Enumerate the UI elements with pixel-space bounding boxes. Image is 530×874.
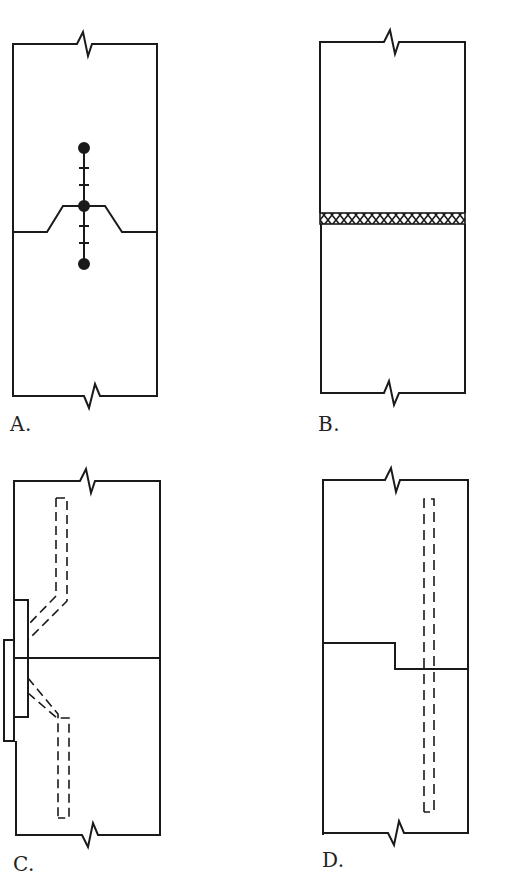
bolt-dot-top bbox=[79, 143, 89, 153]
crosshatch-weld-band bbox=[320, 213, 465, 224]
panel-b-upper-outline bbox=[320, 30, 465, 213]
panel-label-b: B. bbox=[318, 412, 340, 436]
bolt-dot-middle bbox=[79, 201, 89, 211]
panel-b bbox=[320, 30, 465, 405]
lower-dashed-reinforcement bbox=[28, 678, 69, 818]
panel-label-d: D. bbox=[322, 848, 345, 872]
panel-label-c: C. bbox=[13, 852, 35, 874]
joint-diagram bbox=[0, 0, 530, 874]
panel-b-lower-outline bbox=[321, 224, 465, 405]
panel-label-a: A. bbox=[10, 412, 32, 436]
panel-a bbox=[13, 32, 157, 408]
upper-dashed-reinforcement bbox=[28, 498, 67, 640]
outer-splice-plate bbox=[4, 640, 14, 741]
vertical-dashed-reinforcement bbox=[424, 499, 434, 812]
panel-d bbox=[323, 468, 468, 845]
stepped-joint bbox=[323, 643, 468, 669]
bolt-dot-bottom bbox=[79, 259, 89, 269]
panel-c bbox=[4, 469, 160, 847]
